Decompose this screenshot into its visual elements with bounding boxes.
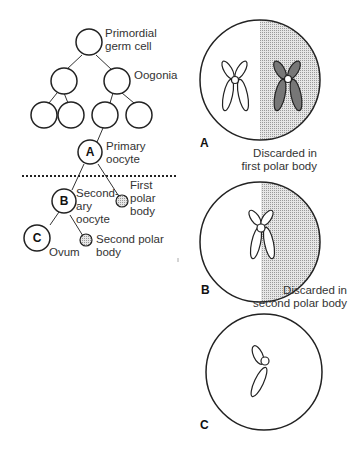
oogenesis-diagram: Primordial germ cell Oogonia Primary ooc… (0, 0, 358, 455)
second-polar-body (80, 234, 92, 246)
primordial-germ-cell (76, 29, 102, 55)
panel-c-letter: C (200, 418, 209, 432)
label-primary-1: Primary (106, 140, 146, 152)
panel-a: A Discarded in first polar body (200, 20, 320, 172)
label-primordial-2: germ cell (105, 40, 152, 52)
oogonium-right (104, 68, 130, 94)
panel-b-caption-1: Discarded in (283, 284, 347, 296)
label-first-polar-3: body (130, 205, 155, 217)
panel-b-caption-2: second polar body (253, 297, 347, 309)
panel-a-caption-2: first polar body (242, 160, 318, 172)
label-second-polar-1: Second polar (96, 233, 164, 245)
node-letter-b: B (60, 194, 69, 208)
node-letter-a: A (86, 145, 95, 159)
label-secondary-3: oocyte (76, 213, 110, 225)
panel-b: B Discarded in second polar body (200, 182, 347, 309)
panel-c: C (200, 314, 322, 432)
panel-b-letter: B (201, 283, 210, 297)
label-first-polar-2: polar (130, 192, 156, 204)
panel-a-caption-1: Discarded in (253, 147, 317, 159)
label-secondary-2: ary (76, 200, 92, 212)
label-first-polar-1: First (130, 179, 153, 191)
label-ovum: Ovum (49, 246, 80, 258)
oogonium-left (51, 68, 77, 94)
label-secondary-1: Second- (76, 187, 119, 199)
daughter-cell-4 (126, 102, 152, 128)
daughter-cell-3 (92, 102, 118, 128)
label-primordial-1: Primordial (105, 27, 157, 39)
node-letter-c: C (33, 231, 42, 245)
chromosome-retained-a (220, 59, 251, 111)
panel-a-letter: A (200, 136, 209, 150)
chromatid-c (248, 344, 270, 398)
daughter-cell-1 (31, 102, 57, 128)
label-primary-2: oocyte (106, 153, 140, 165)
daughter-cell-2 (58, 102, 84, 128)
label-second-polar-2: body (96, 246, 121, 258)
label-oogonia: Oogonia (134, 69, 178, 81)
